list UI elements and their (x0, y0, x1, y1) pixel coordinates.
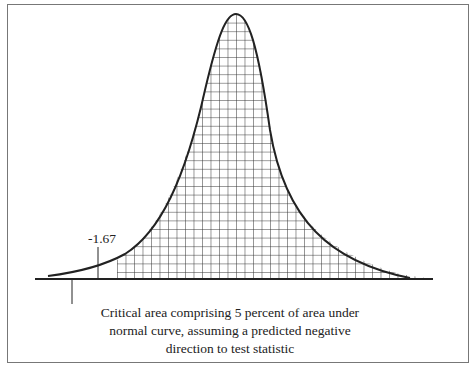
caption-line-3: direction to test statistic (60, 340, 400, 358)
caption-line-2: normal curve, assuming a predicted negat… (60, 322, 400, 340)
caption-line-1: Critical area comprising 5 percent of ar… (60, 304, 400, 322)
critical-value-label: -1.67 (88, 231, 116, 247)
grid-hatch (117, 14, 437, 280)
